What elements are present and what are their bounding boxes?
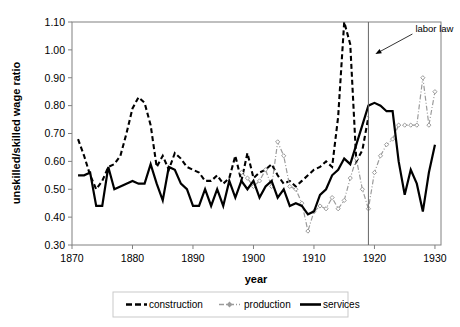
wage-ratio-line-chart: 0.300.400.500.600.700.800.901.001.10 187… [0, 0, 460, 327]
y-axis-title: unskilled/skilled wage ratio [10, 62, 22, 205]
y-tick-label: 0.90 [45, 72, 66, 84]
x-axis-title: year [245, 273, 268, 285]
y-tick-label: 1.10 [45, 16, 66, 28]
legend-label-services: services [323, 299, 360, 310]
chart-background [0, 0, 460, 327]
y-tick-label: 1.00 [45, 44, 66, 56]
x-tick-label: 1870 [60, 252, 84, 264]
chart-container: 0.300.400.500.600.700.800.901.001.10 187… [0, 0, 460, 327]
legend-label-construction: construction [149, 299, 203, 310]
y-tick-label: 0.60 [45, 155, 66, 167]
y-tick-label: 0.80 [45, 99, 66, 111]
legend: construction production services [113, 292, 360, 317]
y-tick-label: 0.50 [45, 183, 66, 195]
x-tick-label: 1890 [181, 252, 205, 264]
x-tick-label: 1920 [363, 252, 387, 264]
y-tick-label: 0.70 [45, 127, 66, 139]
labor-law-label: labor law [415, 23, 453, 34]
x-tick-label: 1910 [302, 252, 326, 264]
legend-label-production: production [244, 299, 291, 310]
x-tick-label: 1930 [423, 252, 447, 264]
x-tick-label: 1900 [242, 252, 266, 264]
y-tick-label: 0.30 [45, 239, 66, 251]
x-tick-label: 1880 [121, 252, 145, 264]
y-tick-label: 0.40 [45, 211, 66, 223]
